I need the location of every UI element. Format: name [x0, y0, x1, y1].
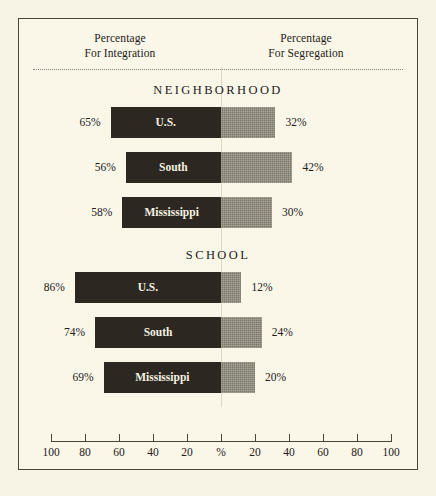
bar-row: Mississippi69%20%: [19, 362, 417, 393]
bar-segment-integration: [104, 362, 221, 393]
axis-tick: [323, 434, 324, 442]
value-label-segregation: 12%: [251, 272, 295, 303]
axis-tick: [255, 434, 256, 442]
bar-group: U.S.86%12%: [19, 272, 417, 303]
value-label-segregation: 42%: [302, 152, 346, 183]
header-right: Percentage For Segregation: [215, 31, 397, 61]
bar-segment-integration: [75, 272, 221, 303]
axis-tick: [153, 434, 154, 442]
bar-group: South56%42%: [19, 152, 417, 183]
bar-segment-segregation: [221, 107, 275, 138]
bar-row: South56%42%: [19, 152, 417, 183]
bar-segment-segregation: [221, 362, 255, 393]
bar-segment-integration: [122, 197, 221, 228]
bar-group: South74%24%: [19, 317, 417, 348]
value-label-integration: 56%: [72, 152, 116, 183]
bar-segment-segregation: [221, 152, 292, 183]
axis-tick: [391, 434, 392, 442]
x-axis: 10080604020%20406080100: [19, 441, 417, 481]
value-label-integration: 86%: [21, 272, 65, 303]
bar-group: Mississippi58%30%: [19, 197, 417, 228]
chart-plot-area: Percentage For Integration Percentage Fo…: [19, 19, 417, 469]
axis-tick: [289, 434, 290, 442]
header-divider: [33, 69, 403, 70]
value-label-integration: 69%: [50, 362, 94, 393]
header-left-line1: Percentage: [29, 31, 211, 46]
section-title-1: SCHOOL: [19, 248, 417, 263]
header-left: Percentage For Integration: [29, 31, 211, 61]
bar-row: South74%24%: [19, 317, 417, 348]
axis-tick: [119, 434, 120, 442]
bar-group: U.S.65%32%: [19, 107, 417, 138]
bar-row: Mississippi58%30%: [19, 197, 417, 228]
axis-tick: [85, 434, 86, 442]
bar-row: U.S.65%32%: [19, 107, 417, 138]
chart-frame: Percentage For Integration Percentage Fo…: [18, 18, 418, 470]
value-label-segregation: 30%: [282, 197, 326, 228]
header-left-line2: For Integration: [29, 46, 211, 61]
value-label-segregation: 24%: [272, 317, 316, 348]
axis-tick: [221, 434, 222, 442]
axis-tick: [51, 434, 52, 442]
bar-segment-integration: [95, 317, 221, 348]
bar-segment-integration: [126, 152, 221, 183]
bar-group: Mississippi69%20%: [19, 362, 417, 393]
bar-segment-segregation: [221, 317, 262, 348]
value-label-integration: 65%: [57, 107, 101, 138]
value-label-integration: 74%: [41, 317, 85, 348]
header-right-line1: Percentage: [215, 31, 397, 46]
value-label-segregation: 32%: [285, 107, 329, 138]
axis-tick-label: 100: [371, 446, 411, 458]
value-label-segregation: 20%: [265, 362, 309, 393]
value-label-integration: 58%: [68, 197, 112, 228]
section-title-0: NEIGHBORHOOD: [19, 83, 417, 98]
bar-segment-segregation: [221, 272, 241, 303]
bar-row: U.S.86%12%: [19, 272, 417, 303]
axis-tick: [187, 434, 188, 442]
bar-segment-segregation: [221, 197, 272, 228]
axis-tick: [357, 434, 358, 442]
bar-segment-integration: [111, 107, 222, 138]
header-right-line2: For Segregation: [215, 46, 397, 61]
